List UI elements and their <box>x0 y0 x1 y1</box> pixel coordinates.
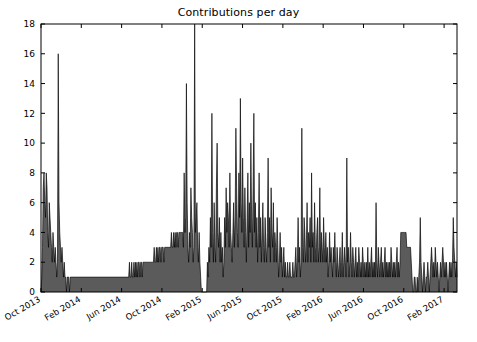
y-tick-label: 14 <box>24 79 36 89</box>
x-tick-label: Jun 2016 <box>326 294 365 322</box>
x-tick-label: Feb 2017 <box>406 294 445 323</box>
y-tick-label: 2 <box>29 257 35 267</box>
y-tick-label: 4 <box>29 228 35 238</box>
x-tick-label: Oct 2015 <box>245 294 284 322</box>
y-tick-label: 12 <box>24 109 35 119</box>
x-tick-label: Oct 2013 <box>3 294 42 322</box>
x-tick-label: Oct 2016 <box>366 294 405 322</box>
x-tick-label: Oct 2014 <box>124 294 163 322</box>
contributions-per-day-plot: 024681012141618 Oct 2013Feb 2014Jun 2014… <box>0 0 477 342</box>
x-tick-label: Feb 2014 <box>43 294 82 323</box>
y-tick-label: 16 <box>24 49 36 59</box>
x-tick-label: Feb 2015 <box>164 294 203 323</box>
x-tick-label: Jun 2014 <box>84 294 123 322</box>
chart-figure: Contributions per day 024681012141618 Oc… <box>0 0 477 342</box>
y-tick-label: 6 <box>29 198 35 208</box>
x-tick-label: Jun 2015 <box>205 294 244 322</box>
y-tick-label: 8 <box>29 168 35 178</box>
y-tick-label: 10 <box>24 138 36 148</box>
y-tick-label: 18 <box>24 19 36 29</box>
x-tick-label: Feb 2016 <box>285 294 324 323</box>
